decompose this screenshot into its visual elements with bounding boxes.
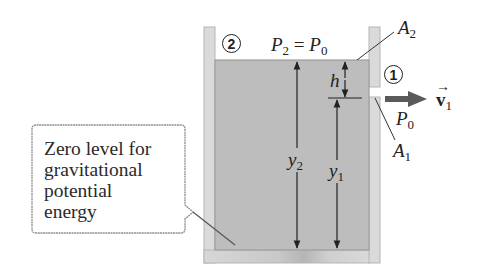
- y1-label: y1: [329, 161, 344, 183]
- equals-sign: =: [289, 34, 309, 55]
- tank: [204, 27, 380, 263]
- p0-hole-subscript: 0: [408, 117, 415, 132]
- area-hole-label: A1: [393, 141, 411, 163]
- tank-bottom: [204, 250, 370, 263]
- pressure-hole-label: P0: [396, 109, 414, 131]
- vector-arrow-icon: →: [436, 79, 450, 95]
- p0-subscript: 0: [321, 43, 328, 58]
- callout-line-4: energy: [44, 201, 187, 222]
- point-2-marker: 2: [222, 34, 241, 53]
- area-top-label: A2: [398, 18, 416, 40]
- right-wall-upper: [369, 27, 380, 87]
- p0-symbol: P: [309, 34, 321, 55]
- callout-line-2: gravitational: [44, 159, 187, 180]
- zero-level-callout: Zero level for gravitational potential e…: [32, 128, 187, 232]
- velocity-label: →v1: [436, 89, 452, 114]
- y2-subscript: 2: [296, 158, 303, 173]
- y1-subscript: 1: [337, 169, 344, 184]
- point-1-label: 1: [390, 67, 398, 83]
- a2-subscript: 2: [410, 26, 417, 41]
- a1-subscript: 1: [405, 149, 412, 164]
- velocity-arrow: [385, 91, 427, 107]
- y2-label: y2: [288, 150, 303, 172]
- p0-hole-symbol: P: [396, 108, 408, 129]
- point-2-label: 2: [228, 36, 236, 52]
- p2-symbol: P: [271, 34, 283, 55]
- callout-line-3: potential: [44, 180, 187, 201]
- h-symbol: h: [330, 70, 340, 91]
- h-label: h: [330, 71, 340, 90]
- callout-line-1: Zero level for: [44, 138, 187, 159]
- a1-symbol: A: [393, 140, 405, 161]
- right-wall-lower: [369, 97, 380, 263]
- pressure-top-label: P2 = P0: [271, 35, 327, 57]
- a2-symbol: A: [398, 17, 410, 38]
- point-1-marker: 1: [384, 65, 403, 84]
- v-subscript: 1: [446, 98, 453, 113]
